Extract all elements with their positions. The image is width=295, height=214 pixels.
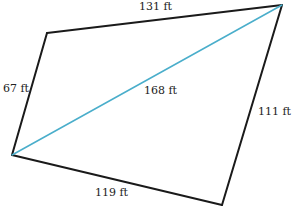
label-diagonal: 168 ft xyxy=(144,85,177,96)
label-top-edge: 131 ft xyxy=(139,1,172,12)
label-left-edge: 67 ft xyxy=(3,83,29,94)
diagonal-line xyxy=(12,5,282,155)
label-right-edge: 111 ft xyxy=(258,106,291,117)
label-bottom-edge: 119 ft xyxy=(95,187,128,198)
diagram-canvas xyxy=(0,0,295,214)
quadrilateral-diagram: 131 ft 111 ft 119 ft 67 ft 168 ft xyxy=(0,0,295,214)
